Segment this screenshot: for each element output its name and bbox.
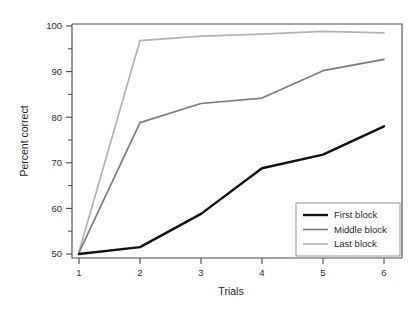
y-axis-tick-labels: 100 90 80 70 60 50 (46, 20, 62, 259)
y-axis-ticks (66, 26, 72, 254)
chart-figure: 100 90 80 70 60 50 1 2 3 4 5 6 Trials Pe… (0, 0, 417, 316)
legend-label-middle-block: Middle block (334, 224, 387, 235)
x-axis-tick-labels: 1 2 3 4 5 6 (76, 267, 386, 278)
y-tick-label: 90 (51, 66, 62, 77)
line-chart: 100 90 80 70 60 50 1 2 3 4 5 6 Trials Pe… (0, 0, 417, 316)
x-tick-label: 1 (76, 267, 81, 278)
y-tick-label: 70 (51, 157, 62, 168)
x-axis-title: Trials (218, 285, 243, 297)
x-tick-label: 5 (320, 267, 325, 278)
x-tick-label: 6 (381, 267, 386, 278)
y-tick-label: 50 (51, 248, 62, 259)
y-tick-label: 80 (51, 112, 62, 123)
x-axis-ticks (79, 258, 384, 264)
y-tick-label: 100 (46, 20, 62, 31)
y-axis-title: Percent correct (18, 105, 30, 176)
y-tick-label: 60 (51, 203, 62, 214)
x-tick-label: 2 (137, 267, 142, 278)
chart-legend: First block Middle block Last block (296, 203, 400, 256)
legend-label-first-block: First block (334, 209, 378, 220)
legend-label-last-block: Last block (334, 238, 377, 249)
x-tick-label: 4 (259, 267, 264, 278)
x-tick-label: 3 (198, 267, 203, 278)
